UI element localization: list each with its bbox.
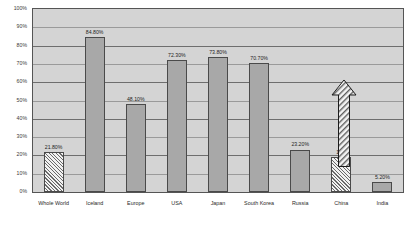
bar-value-label: 5.20% xyxy=(375,175,390,181)
bar-value-label: 73.80% xyxy=(209,50,227,56)
bar-group: 23.20% xyxy=(280,9,321,192)
bar-iceland[interactable] xyxy=(85,37,105,192)
x-axis: Whole WorldIcelandEuropeUSAJapanSouth Ko… xyxy=(32,200,404,214)
bar-group: 84.80% xyxy=(74,9,115,192)
x-axis-tick-label: Whole World xyxy=(38,200,69,206)
bar-value-label: 21.80% xyxy=(45,145,63,151)
bar-group: 48.10% xyxy=(115,9,156,192)
bar-south-korea[interactable] xyxy=(249,63,269,192)
y-axis-tick-label: 20% xyxy=(17,153,27,158)
y-axis-tick-label: 90% xyxy=(17,25,27,30)
bar-group: 73.80% xyxy=(197,9,238,192)
y-axis-tick-label: 10% xyxy=(17,171,27,176)
bar-group: 5.20% xyxy=(362,9,403,192)
y-axis-tick-label: 50% xyxy=(17,98,27,103)
bar-whole-world[interactable] xyxy=(44,152,64,192)
x-axis-tick-label: Japan xyxy=(211,200,226,206)
bar-value-label: 48.10% xyxy=(127,97,145,103)
x-axis-tick-label: USA xyxy=(171,200,182,206)
y-axis-tick-label: 60% xyxy=(17,80,27,85)
bar-china[interactable] xyxy=(331,157,351,192)
bar-value-label: 19.1 xyxy=(336,150,346,156)
y-axis: 100%90%80%70%60%50%40%30%20%10%0% xyxy=(0,8,30,193)
bar-europe[interactable] xyxy=(126,104,146,192)
bar-chart: 100%90%80%70%60%50%40%30%20%10%0% 21.80%… xyxy=(0,0,414,227)
x-axis-tick-label: India xyxy=(377,200,389,206)
y-axis-tick-label: 80% xyxy=(17,43,27,48)
bar-value-label: 72.30% xyxy=(168,53,186,59)
x-axis-tick-label: South Korea xyxy=(244,200,274,206)
bar-usa[interactable] xyxy=(167,60,187,192)
bar-value-label: 84.80% xyxy=(86,30,104,36)
x-axis-tick-label: Russia xyxy=(292,200,308,206)
bar-value-label: 70.70% xyxy=(250,56,268,62)
bar-group: 21.80% xyxy=(33,9,74,192)
bar-group: 70.70% xyxy=(239,9,280,192)
y-axis-tick-label: 40% xyxy=(17,116,27,121)
plot-area: 21.80%84.80%48.10%72.30%73.80%70.70%23.2… xyxy=(32,8,404,193)
bar-group: 72.30% xyxy=(156,9,197,192)
bar-russia[interactable] xyxy=(290,150,310,192)
bar-series: 21.80%84.80%48.10%72.30%73.80%70.70%23.2… xyxy=(33,9,403,192)
y-axis-tick-label: 100% xyxy=(14,6,27,11)
bar-value-label: 23.20% xyxy=(291,142,309,148)
x-axis-tick-label: Europe xyxy=(127,200,144,206)
bar-japan[interactable] xyxy=(208,57,228,192)
x-axis-tick-label: China xyxy=(334,200,348,206)
y-axis-tick-label: 0% xyxy=(20,189,28,194)
x-axis-tick-label: Iceland xyxy=(86,200,103,206)
y-axis-tick-label: 30% xyxy=(17,134,27,139)
bar-india[interactable] xyxy=(372,182,392,192)
y-axis-tick-label: 70% xyxy=(17,61,27,66)
bar-group: 19.1 xyxy=(321,9,362,192)
